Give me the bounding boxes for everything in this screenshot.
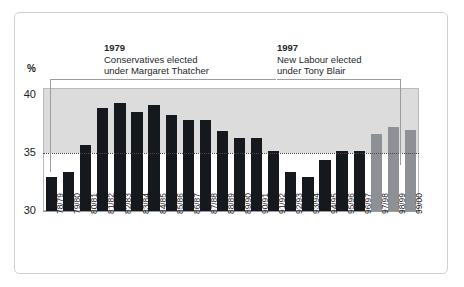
y-tick-35: 35 (14, 146, 36, 158)
x-tick-81-82: 81/82 (106, 193, 116, 214)
x-tick-82-83: 82/83 (123, 193, 133, 214)
x-tick-93-94: 93/94 (311, 193, 321, 214)
annotation-1997-year: 1997 (277, 42, 427, 54)
x-tick-80-81: 80/81 (89, 193, 99, 214)
annotation-1979: 1979 Conservatives elected under Margare… (104, 42, 274, 77)
x-tick-78-79: 78/79 (55, 193, 65, 214)
y-tick-40: 40 (14, 88, 36, 100)
x-tick-89-90: 89/90 (243, 193, 253, 214)
gridline-35 (43, 153, 419, 154)
x-tick-94-95: 94/95 (329, 193, 339, 214)
x-tick-90-91: 90/91 (260, 193, 270, 214)
x-tick-95-96: 95/96 (346, 193, 356, 214)
x-tick-97-98: 97/98 (380, 193, 390, 214)
x-tick-85-86: 85/86 (175, 193, 185, 214)
annotation-1979-line2: under Margaret Thatcher (104, 65, 209, 76)
annotation-1997-line1: New Labour elected (277, 54, 362, 65)
x-tick-83-84: 83/84 (141, 193, 151, 214)
annotation-1979-line1: Conservatives elected (104, 54, 197, 65)
x-tick-98-99: 98/99 (397, 193, 407, 214)
x-tick-88-89: 88/89 (226, 193, 236, 214)
annotation-1997: 1997 New Labour elected under Tony Blair (277, 42, 427, 77)
x-tick-86-87: 86/87 (192, 193, 202, 214)
x-tick-84-85: 84/85 (158, 193, 168, 214)
annotation-1979-year: 1979 (104, 42, 274, 54)
x-tick-79-80: 79/80 (72, 193, 82, 214)
x-tick-92-93: 92/93 (294, 193, 304, 214)
chart-figure: % 30354078/7979/8080/8181/8282/8383/8484… (0, 0, 464, 287)
x-tick-96-97: 96/97 (363, 193, 373, 214)
annotation-1997-line2: under Tony Blair (277, 65, 345, 76)
x-tick-87-88: 87/88 (209, 193, 219, 214)
x-tick-91-92: 91/92 (277, 193, 287, 214)
x-tick-99-00: 99/00 (414, 193, 424, 214)
y-axis-unit-label: % (27, 63, 36, 74)
y-tick-30: 30 (14, 204, 36, 216)
